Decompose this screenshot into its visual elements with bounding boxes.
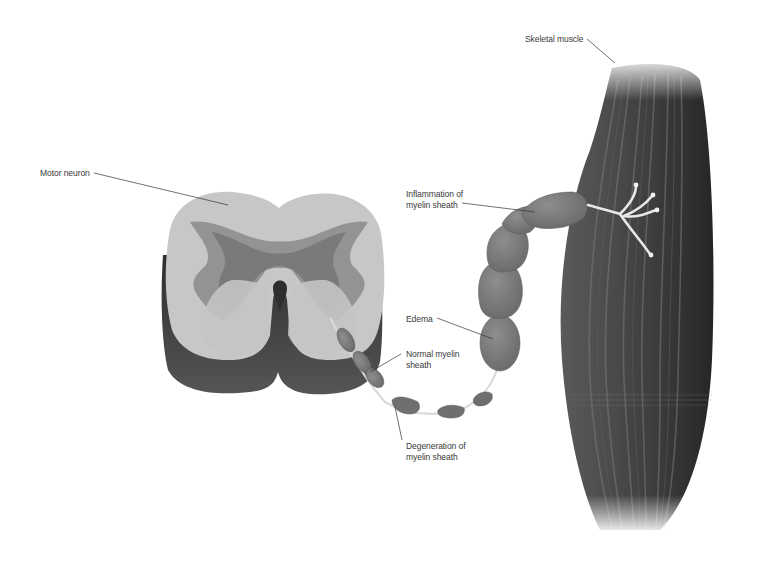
label-edema-text: Edema [406,313,433,324]
diagram-canvas: Motor neuron Skeletal muscle Inflammatio… [0,0,760,563]
label-normal-myelin: Normal myelin sheath [406,348,459,370]
label-motor-neuron-text: Motor neuron [40,167,90,178]
label-inflammation-line2: myelin sheath [406,199,463,210]
label-inflammation: Inflammation of myelin sheath [406,188,463,210]
label-normal-myelin-line1: Normal myelin [406,348,459,359]
label-skeletal-muscle-text: Skeletal muscle [525,33,584,44]
label-inflammation-line1: Inflammation of [406,188,463,199]
degenerated-myelin-segments [392,392,492,418]
leader-motor-neuron [94,173,228,205]
illustration [0,0,760,563]
label-normal-myelin-line2: sheath [406,359,459,370]
label-degeneration: Degeneration of myelin sheath [406,440,465,462]
spinal-cord-cross-section [162,192,385,394]
label-degeneration-line2: myelin sheath [406,451,465,462]
edematous-myelin-segment [480,315,520,371]
label-degeneration-line1: Degeneration of [406,440,465,451]
label-edema: Edema [406,313,433,324]
label-skeletal-muscle: Skeletal muscle [525,33,584,44]
label-motor-neuron: Motor neuron [40,167,90,178]
skeletal-muscle [550,55,730,535]
